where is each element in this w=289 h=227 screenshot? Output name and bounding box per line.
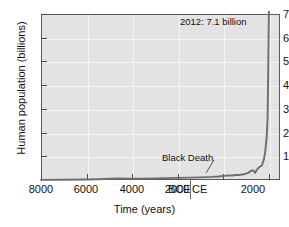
y-tick-label-7: 7: [255, 9, 289, 20]
gridline-horizontal: [42, 62, 279, 63]
y-tick-label-1: 1: [255, 151, 289, 162]
y-tick-label-4: 4: [255, 80, 289, 91]
gridline-horizontal: [42, 134, 279, 135]
x-tick-mark: [223, 174, 224, 180]
population-chart: 7 6 5 4 3 2 1 Human population (billions…: [0, 0, 289, 227]
y-tick-mark: [41, 109, 47, 110]
gridline-vertical: [224, 15, 225, 179]
gridline-horizontal: [42, 110, 279, 111]
y-tick-label-5: 5: [255, 56, 289, 67]
plot-area: [41, 14, 280, 180]
x-tick-mark: [41, 174, 42, 180]
gridline-horizontal: [42, 39, 279, 40]
x-tick-label-8000bce: 8000: [26, 183, 56, 195]
gridline-vertical: [88, 15, 89, 179]
x-tick-mark: [87, 174, 88, 180]
y-tick-label-6: 6: [255, 33, 289, 44]
y-tick-label-2: 2: [255, 128, 289, 139]
x-axis-title: Time (years): [0, 203, 289, 215]
gridline-horizontal: [42, 157, 279, 158]
x-tick-label-2000ce: 2000: [238, 183, 268, 195]
x-tick-label-ce: CE: [192, 183, 210, 195]
y-tick-label-3: 3: [255, 104, 289, 115]
y-tick-mark: [41, 61, 47, 62]
y-tick-mark: [41, 14, 47, 15]
y-tick-mark: [41, 156, 47, 157]
gridline-vertical: [133, 15, 134, 179]
annotation-black-death: Black Death: [162, 152, 213, 163]
annotation-peak-population: 2012: 7.1 billion: [180, 16, 247, 27]
y-tick-mark: [41, 133, 47, 134]
x-tick-label-bce: BCE: [168, 183, 190, 195]
y-tick-mark: [41, 38, 47, 39]
y-axis-title: Human population (billions): [15, 3, 27, 173]
x-tick-mark: [132, 174, 133, 180]
x-tick-label-4000bce: 4000: [117, 183, 147, 195]
gridline-horizontal: [42, 86, 279, 87]
y-tick-mark: [41, 85, 47, 86]
x-tick-label-6000bce: 6000: [71, 183, 101, 195]
x-tick-mark: [269, 174, 270, 180]
x-tick-mark: [178, 174, 179, 180]
era-divider: [190, 180, 191, 199]
